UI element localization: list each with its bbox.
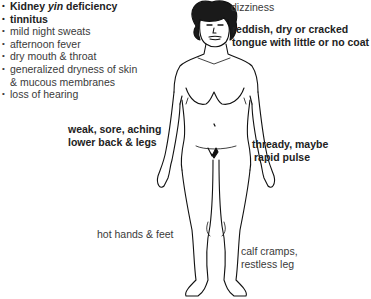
label-calf-cramps: calf cramps, restless leg xyxy=(241,245,298,270)
title-text-italic: yin xyxy=(48,0,63,12)
list-item: loss of hearing xyxy=(2,88,137,101)
label-calves-line2: restless leg xyxy=(241,258,298,271)
neck xyxy=(174,44,206,92)
label-hot-hands-feet: hot hands & feet xyxy=(97,228,173,241)
list-item: afternoon fever xyxy=(2,38,137,51)
label-pulse: thready, maybe rapid pulse xyxy=(252,138,328,163)
symptom-list: Kidney yin deficiency tinnitus mild nigh… xyxy=(2,0,137,101)
chest xyxy=(186,88,244,104)
label-lower-back: weak, sore, aching lower back & legs xyxy=(68,123,161,148)
hair xyxy=(192,1,237,40)
list-item: dry mouth & throat xyxy=(2,50,137,63)
torso xyxy=(181,100,185,170)
list-item: tinnitus xyxy=(2,13,137,26)
list-item: generalized dryness of skin& mucous memb… xyxy=(2,63,137,88)
list-item-text: generalized dryness of skin xyxy=(10,63,137,75)
left-leg xyxy=(182,160,213,296)
label-pulse-line2: rapid pulse xyxy=(252,151,328,164)
label-pulse-line1: thready, maybe xyxy=(252,138,328,151)
title-text-pre: Kidney xyxy=(10,0,48,12)
label-back-line1: weak, sore, aching xyxy=(68,123,161,136)
label-tongue: reddish, dry or cracked tongue with litt… xyxy=(232,23,369,48)
list-title: Kidney yin deficiency xyxy=(2,0,137,13)
label-back-line2: lower back & legs xyxy=(68,136,161,149)
list-item: mild night sweats xyxy=(2,25,137,38)
label-tongue-line2: tongue with little or no coat xyxy=(232,36,369,49)
label-tongue-line1: reddish, dry or cracked xyxy=(232,23,369,36)
list-item-continuation: & mucous membranes xyxy=(10,76,137,89)
title-text-post: deficiency xyxy=(63,0,117,12)
groin xyxy=(208,148,218,158)
right-leg xyxy=(219,160,250,296)
label-calves-line1: calf cramps, xyxy=(241,245,298,258)
label-dizziness: dizziness xyxy=(231,1,274,14)
